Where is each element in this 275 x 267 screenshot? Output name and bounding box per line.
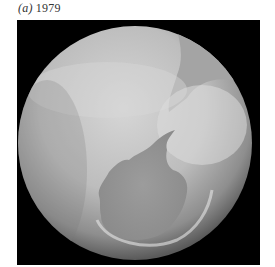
satellite-image-frame — [17, 20, 260, 265]
year-label: 1979 — [36, 1, 61, 15]
figure-caption: (a) 1979 — [18, 1, 61, 16]
globe-image — [17, 20, 260, 265]
panel-label: (a) — [18, 1, 33, 15]
